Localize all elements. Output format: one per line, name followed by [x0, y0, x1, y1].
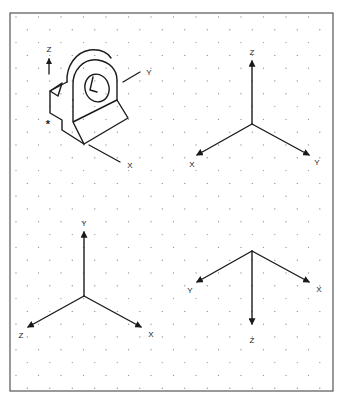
bl-x-label: X	[148, 330, 154, 339]
bl-z-label: Z	[19, 331, 24, 340]
bl-y-label: Y	[81, 219, 87, 228]
object-y-label: Y	[146, 68, 152, 77]
page-background	[0, 0, 342, 405]
isometric-worksheet: Z Y X * Z X Y Y Z X Y X Z	[0, 0, 342, 405]
object-x-label: X	[127, 161, 133, 170]
br-z-label: Z	[250, 336, 255, 345]
tr-y-label: Y	[314, 158, 320, 167]
tr-x-label: X	[189, 160, 195, 169]
br-y-label: Y	[187, 286, 193, 295]
object-z-label: Z	[47, 45, 52, 54]
reference-corner-marker: *	[46, 118, 51, 130]
br-x-label: X	[316, 285, 322, 294]
tr-z-label: Z	[250, 48, 255, 57]
